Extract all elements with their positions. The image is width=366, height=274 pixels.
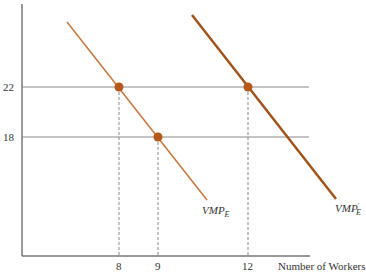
- y-tick-18: 18: [3, 131, 15, 143]
- label-vmp-e: VMPE: [202, 204, 230, 219]
- x-tick-8: 8: [116, 260, 122, 272]
- label-vmp-e-prime: VMP'E: [335, 201, 361, 217]
- y-tick-22: 22: [3, 81, 14, 93]
- point-12-22: [244, 83, 253, 92]
- curve-vmp-e: [67, 22, 207, 200]
- chart: 22 18 8 9 12 Number of Workers VMPE VMP'…: [0, 0, 366, 274]
- point-8-22: [115, 83, 124, 92]
- x-tick-9: 9: [155, 260, 161, 272]
- point-9-18: [154, 133, 163, 142]
- x-tick-12: 12: [242, 260, 253, 272]
- x-axis-label: Number of Workers: [278, 260, 366, 272]
- curve-vmp-e-prime: [192, 15, 336, 199]
